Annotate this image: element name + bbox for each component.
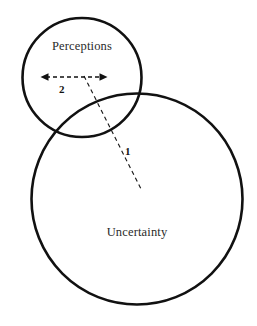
- measure-label-1: 1: [125, 146, 131, 157]
- arrow-head-left-icon: [41, 73, 49, 81]
- measure-label-2: 2: [59, 84, 65, 95]
- arrow-head-right-icon: [100, 73, 108, 81]
- radius-arrow-perceptions: [41, 73, 108, 81]
- uncertainty-label: Uncertainty: [47, 226, 227, 239]
- perceptions-label: Perceptions: [0, 40, 164, 53]
- uncertainty-circle: [32, 94, 243, 305]
- diagram-canvas: Perceptions Uncertainty 1 2: [0, 0, 257, 326]
